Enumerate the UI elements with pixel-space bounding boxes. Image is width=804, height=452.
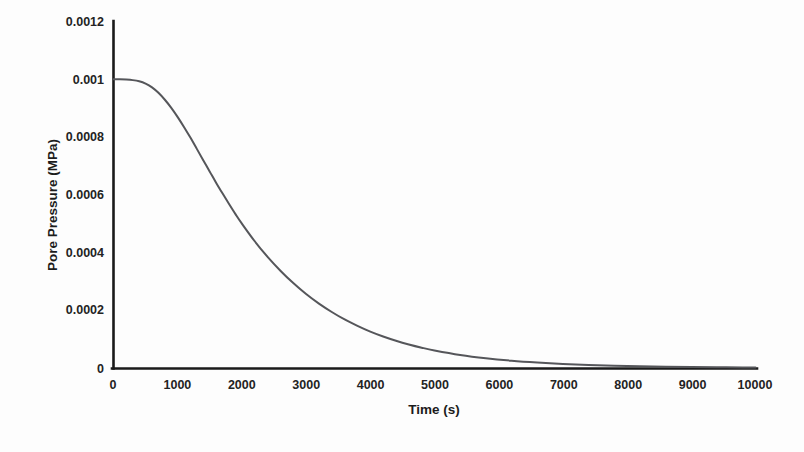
x-tick-label: 3000 [292, 378, 320, 392]
chart-figure: 0.0012 0.001 0.0008 0.0006 0.0004 0.0002… [0, 0, 804, 452]
y-tick-label: 0.001 [73, 73, 104, 87]
x-tick-label: 7000 [550, 378, 578, 392]
y-tick-label: 0.0008 [66, 130, 104, 144]
x-tick-label: 0 [110, 378, 117, 392]
x-tick-label: 9000 [679, 378, 707, 392]
x-tick-label: 1000 [163, 378, 191, 392]
x-tick-label: 5000 [421, 378, 449, 392]
y-tick-label: 0.0006 [66, 188, 104, 202]
x-tick-label: 6000 [485, 378, 513, 392]
x-axis-title: Time (s) [408, 402, 460, 417]
pore-pressure-line-chart: 0.0012 0.001 0.0008 0.0006 0.0004 0.0002… [0, 0, 804, 452]
y-tick-label: 0.0004 [66, 246, 104, 260]
x-tick-label: 8000 [614, 378, 642, 392]
y-axis-title: Pore Pressure (MPa) [45, 139, 60, 271]
y-tick-label: 0.0012 [66, 15, 104, 29]
x-tick-label: 4000 [357, 378, 385, 392]
x-tick-label: 10000 [738, 378, 773, 392]
y-tick-label: 0.0002 [66, 303, 104, 317]
y-tick-label: 0 [97, 362, 104, 376]
x-tick-label: 2000 [228, 378, 256, 392]
